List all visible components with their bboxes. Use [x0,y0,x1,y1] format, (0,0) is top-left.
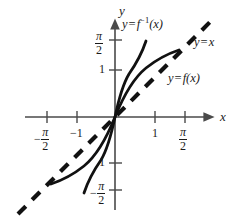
inverse-function-figure: x y −π2 −1 1 π2 π2 1 1 −π2 y=f−1(x) y=x … [0,0,239,220]
label-arg: (x) [186,71,200,85]
equals-sign: = [128,17,137,31]
fraction-denominator: 2 [95,44,103,56]
minus-sign: − [34,133,41,145]
label-exponent: −1 [140,15,149,25]
equals-sign: = [200,35,209,49]
fraction-denominator: 2 [97,194,105,206]
y-tick-label-pi-over-2: π2 [95,30,103,56]
fraction-numerator: π [95,30,103,42]
fraction-pi-over-2: π2 [41,126,49,152]
fraction-denominator: 2 [41,140,49,152]
label-lhs: y [122,17,128,31]
fraction-denominator: 2 [179,140,187,152]
x-axis-label: x [220,110,226,123]
label-fn: x [209,35,215,49]
curve-label-identity: y=x [194,36,214,49]
label-arg: (x) [149,17,163,31]
fraction-numerator: π [41,126,49,138]
y-tick-label-neg-one: 1 [99,156,105,168]
fraction-numerator: π [179,126,187,138]
minus-sign: − [90,187,97,199]
fraction-numerator: π [97,180,105,192]
x-tick-label-neg-one: −1 [70,127,83,139]
equals-sign: = [174,71,183,85]
y-tick-label-neg-pi-over-2: −π2 [90,180,105,206]
curve-label-f-inverse: y=f−1(x) [122,16,163,31]
fraction-pi-over-2: π2 [179,126,187,152]
y-tick-label-one: 1 [99,63,105,75]
fraction-pi-over-2: π2 [95,30,103,56]
curve-label-f-of-x: y=f(x) [168,72,200,85]
x-tick-label-one: 1 [152,127,158,139]
label-lhs: y [168,71,174,85]
graph-canvas [0,0,239,220]
fraction-pi-over-2: π2 [97,180,105,206]
label-lhs: y [194,35,200,49]
x-tick-label-neg-pi-over-2: −π2 [34,126,49,152]
x-tick-label-pi-over-2: π2 [179,126,187,152]
